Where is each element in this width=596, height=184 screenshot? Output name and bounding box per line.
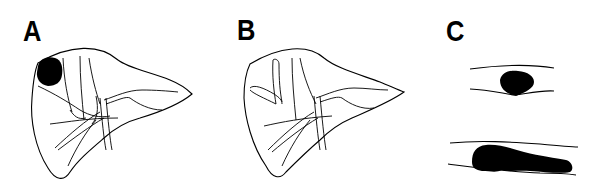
thrombus-large: [472, 145, 572, 173]
lesion-a: [37, 57, 62, 86]
liver-illustration-b: [220, 0, 420, 184]
thrombus-small: [500, 71, 534, 96]
panel-b: B: [220, 0, 420, 184]
panel-c: C: [430, 0, 596, 184]
liver-illustration-a: [0, 0, 200, 184]
vessel-illustration-c: [430, 0, 596, 184]
panel-a: A: [0, 0, 200, 184]
